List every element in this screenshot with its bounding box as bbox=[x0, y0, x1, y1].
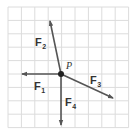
force-label-f3: F3 bbox=[90, 74, 101, 88]
force-label-f2: F2 bbox=[35, 36, 46, 50]
force-arrow-f3 bbox=[61, 74, 113, 98]
force-diagram: P F1F2F3F4 bbox=[0, 0, 139, 137]
point-p-dot bbox=[58, 71, 64, 77]
point-p-label: P bbox=[65, 60, 72, 71]
force-label-f1: F1 bbox=[34, 80, 45, 94]
